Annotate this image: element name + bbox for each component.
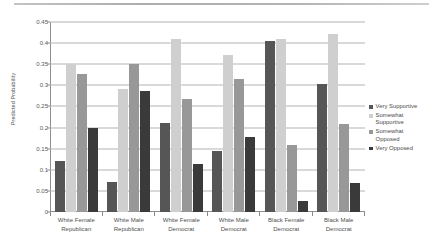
- legend-item-label: Very Supportive: [376, 103, 418, 110]
- x-axis-category-label: White FemaleDemocrat: [155, 216, 208, 246]
- y-axis-tick-labels: 00.050.10.150.20.250.30.350.40.45: [18, 0, 48, 252]
- plot-area: [50, 22, 365, 212]
- legend-swatch-icon: [369, 130, 373, 134]
- bar: [193, 164, 203, 212]
- x-axis-category-labels: White FemaleRepublicanWhite MaleRepublic…: [50, 216, 365, 246]
- legend-item-label: Very Opposed: [376, 145, 413, 152]
- bar: [265, 41, 275, 212]
- bar-group: [208, 22, 261, 212]
- legend-item-label: Somewhat Opposed: [376, 128, 404, 143]
- x-axis-category-label: Black MaleDemocrat: [313, 216, 366, 246]
- x-axis-category-label: Black FemaleDemocrat: [260, 216, 313, 246]
- bar: [118, 89, 128, 212]
- bar-group: [313, 22, 366, 212]
- x-axis-category-label: White MaleRepublican: [103, 216, 156, 246]
- bar: [129, 64, 139, 212]
- bar: [317, 84, 327, 212]
- y-axis-tick-label: 0.4: [18, 40, 48, 46]
- x-axis-category-label-line: White Female: [155, 216, 208, 225]
- y-axis-tick-label: 0.05: [18, 188, 48, 194]
- x-axis-category-label: White MaleDemocrat: [208, 216, 261, 246]
- bar: [350, 183, 360, 212]
- y-axis-tick-label: 0.2: [18, 125, 48, 131]
- x-axis-category-label-line: White Male: [208, 216, 261, 225]
- bar: [160, 123, 170, 212]
- legend-item[interactable]: Very Opposed: [369, 145, 443, 152]
- legend-item-label: Somewhat Supportive: [376, 112, 404, 127]
- bar-group: [155, 22, 208, 212]
- x-axis-category-label-line: Black Female: [260, 216, 313, 225]
- y-axis-tick-label: 0.45: [18, 19, 48, 25]
- x-axis-category-label-line: Democrat: [208, 225, 261, 234]
- legend-swatch-icon: [369, 114, 373, 118]
- bar: [298, 201, 308, 212]
- y-axis-tick-label: 0.15: [18, 146, 48, 152]
- x-axis-category-label-line: White Female: [50, 216, 103, 225]
- bar-group: [50, 22, 103, 212]
- chart-page: Predicted Probability 00.050.10.150.20.2…: [0, 0, 443, 252]
- bar: [140, 91, 150, 212]
- bar: [276, 39, 286, 212]
- bar-group: [103, 22, 156, 212]
- bar: [287, 145, 297, 212]
- bar: [88, 128, 98, 212]
- x-axis-category-label: White FemaleRepublican: [50, 216, 103, 246]
- bar: [234, 79, 244, 212]
- y-axis-tick-label: 0: [18, 209, 48, 215]
- x-axis-category-label-line: Republican: [50, 225, 103, 234]
- y-axis-tick-label: 0.25: [18, 103, 48, 109]
- x-axis-category-label-line: Democrat: [313, 225, 366, 234]
- legend-item[interactable]: Somewhat Opposed: [369, 128, 443, 143]
- legend-item[interactable]: Very Supportive: [369, 103, 443, 110]
- bar: [55, 161, 65, 213]
- chart-figure: Predicted Probability 00.050.10.150.20.2…: [0, 0, 443, 252]
- bar: [66, 64, 76, 212]
- chart-legend: Very SupportiveSomewhat SupportiveSomewh…: [369, 103, 443, 153]
- legend-swatch-icon: [369, 147, 373, 151]
- bar: [223, 55, 233, 212]
- bar-group: [260, 22, 313, 212]
- y-axis-title: Predicted Probability: [10, 44, 16, 154]
- bar: [107, 182, 117, 212]
- x-axis-category-label-line: Democrat: [155, 225, 208, 234]
- bar-groups: [50, 22, 365, 212]
- x-axis-category-label-line: White Male: [103, 216, 156, 225]
- x-axis-category-label-line: Democrat: [260, 225, 313, 234]
- bar: [339, 124, 349, 212]
- y-axis-tick-label: 0.35: [18, 61, 48, 67]
- x-axis-category-label-line: Black Male: [313, 216, 366, 225]
- y-axis-tick-label: 0.1: [18, 167, 48, 173]
- bar: [77, 74, 87, 212]
- bar: [245, 137, 255, 212]
- bar: [171, 39, 181, 212]
- x-axis-category-label-line: Republican: [103, 225, 156, 234]
- y-axis-tick-label: 0.3: [18, 82, 48, 88]
- bar: [182, 99, 192, 212]
- bar: [328, 34, 338, 212]
- legend-item[interactable]: Somewhat Supportive: [369, 112, 443, 127]
- bar: [212, 151, 222, 212]
- legend-swatch-icon: [369, 105, 373, 109]
